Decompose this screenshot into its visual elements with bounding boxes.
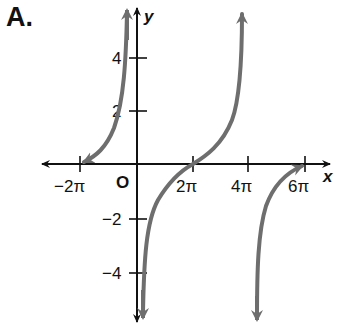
x-tick-label: 2π: [176, 177, 197, 196]
x-tick-label: 6π: [288, 177, 309, 196]
x-axis-label: x: [322, 167, 334, 186]
y-tick-label: −4: [102, 264, 121, 283]
x-tick-label: 4π: [231, 177, 252, 196]
y-tick-label: 4: [112, 49, 121, 68]
graph-figure: A. −2π 2: [0, 0, 341, 324]
y-tick-label: −2: [102, 210, 121, 229]
y-axis-label: y: [143, 7, 155, 26]
curve-branch-1: [84, 12, 127, 162]
origin-label: O: [116, 173, 129, 192]
chart-svg: −2π 2π 4π 6π 4 2 −2 −4 O y x: [0, 0, 341, 324]
x-tick-label: −2π: [54, 177, 85, 196]
